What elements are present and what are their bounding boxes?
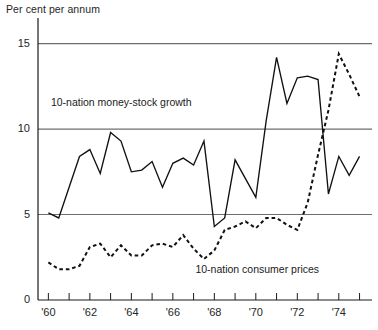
chart-figure: Per cent per annum 051015 '60'62'64'66'6… — [0, 0, 378, 330]
data-series-group — [48, 54, 359, 269]
x-tick-label-68: '68 — [199, 306, 229, 318]
x-tick-label-64: '64 — [116, 306, 146, 318]
chart-plot-area — [0, 0, 378, 330]
x-axis-ticks — [48, 293, 359, 300]
x-tick-label-60: '60 — [33, 306, 63, 318]
y-tick-label-5: 5 — [8, 208, 30, 220]
x-tick-label-66: '66 — [158, 306, 188, 318]
y-tick-label-0: 0 — [8, 293, 30, 305]
y-tick-label-15: 15 — [8, 37, 30, 49]
series-label-consumer-prices: 10-nation consumer prices — [195, 263, 319, 275]
x-tick-label-74: '74 — [324, 306, 354, 318]
x-tick-label-70: '70 — [241, 306, 271, 318]
series-label-money-stock: 10-nation money-stock growth — [51, 96, 192, 108]
y-tick-label-10: 10 — [8, 122, 30, 134]
x-tick-label-62: '62 — [75, 306, 105, 318]
x-tick-label-72: '72 — [282, 306, 312, 318]
